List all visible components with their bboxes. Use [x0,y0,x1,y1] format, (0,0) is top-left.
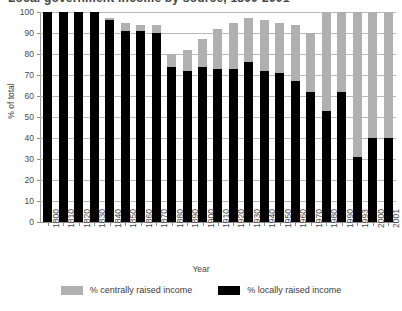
x-tick-mark-1970 [311,223,312,226]
legend-item-central[interactable]: % centrally raised income [61,285,193,295]
x-tick-mark-1920 [233,223,234,226]
bar-1850[interactable] [121,12,130,222]
x-tick-label-1910: 1910 [222,209,231,228]
x-tick-label-1850: 1850 [129,209,138,228]
bar-segment-local-1820 [74,12,83,222]
x-tick-mark-1820 [79,223,80,226]
x-tick-label-1960: 1960 [299,209,308,228]
plot-area [40,12,396,222]
x-tick-mark-1960 [295,223,296,226]
bar-segment-local-1890 [183,71,192,222]
bar-1993[interactable] [353,12,362,222]
bar-segment-central-2000 [368,12,377,138]
x-tick-mark-1950 [280,223,281,226]
y-tick-mark-0 [37,222,40,223]
bar-segment-local-1800 [43,12,52,222]
bar-segment-local-1950 [275,73,284,222]
bar-1980[interactable] [322,12,331,222]
x-tick-mark-1940 [264,223,265,226]
bar-1960[interactable] [291,12,300,222]
bar-segment-central-1870 [152,25,161,33]
y-tick-label-90: 90 [0,29,34,38]
x-tick-mark-2000 [373,223,374,226]
bar-segment-local-1930 [244,62,253,222]
x-tick-mark-1830 [94,223,95,226]
x-tick-label-1970: 1970 [315,209,324,228]
x-tick-mark-1993 [357,223,358,226]
x-tick-mark-1900 [203,223,204,226]
chart-title-strip: Local government income by source, 1800-… [0,0,402,7]
x-tick-label-1860: 1860 [145,209,154,228]
bar-1830[interactable] [90,12,99,222]
x-tick-label-1900: 1900 [207,209,216,228]
bar-segment-local-1990 [337,92,346,222]
y-tick-label-70: 70 [0,71,34,80]
bar-1890[interactable] [183,12,192,222]
bar-1840[interactable] [105,12,114,222]
x-tick-label-1800: 1800 [52,209,61,228]
legend-label-local: % locally raised income [247,285,341,295]
x-tick-label-1940: 1940 [268,209,277,228]
bar-segment-local-1910 [213,69,222,222]
bar-1820[interactable] [74,12,83,222]
y-tick-label-40: 40 [0,134,34,143]
bar-2000[interactable] [368,12,377,222]
bar-1900[interactable] [198,12,207,222]
bar-1950[interactable] [275,12,284,222]
x-tick-label-1820: 1820 [83,209,92,228]
bar-segment-central-2001 [384,12,393,138]
y-tick-label-20: 20 [0,176,34,185]
bar-segment-central-1930 [244,18,253,62]
bar-segment-local-1880 [167,67,176,222]
bar-1810[interactable] [59,12,68,222]
bar-segment-local-1920 [229,69,238,222]
bar-1860[interactable] [136,12,145,222]
bar-1970[interactable] [306,12,315,222]
x-axis-label: Year [0,264,402,274]
x-tick-mark-1860 [141,223,142,226]
bar-segment-local-1980 [322,111,331,222]
bar-segment-central-1850 [121,23,130,31]
x-tick-label-1930: 1930 [253,209,262,228]
bar-segment-local-1840 [105,20,114,222]
x-tick-label-1993: 1993 [361,209,370,228]
x-tick-mark-1910 [218,223,219,226]
bar-1870[interactable] [152,12,161,222]
x-tick-mark-1930 [249,223,250,226]
bar-1990[interactable] [337,12,346,222]
legend-item-local[interactable]: % locally raised income [218,285,341,295]
y-tick-label-80: 80 [0,50,34,59]
bar-segment-central-1980 [322,12,331,111]
legend-swatch-local [218,286,240,295]
bar-1940[interactable] [260,12,269,222]
bar-segment-central-1950 [275,23,284,73]
bar-segment-local-1830 [90,12,99,222]
bar-segment-central-1990 [337,12,346,92]
x-tick-label-1980: 1980 [330,209,339,228]
x-tick-mark-1980 [326,223,327,226]
bar-segment-central-1880 [167,54,176,67]
bar-1800[interactable] [43,12,52,222]
bar-segment-central-1860 [136,25,145,31]
bar-segment-central-1920 [229,23,238,69]
bar-segment-central-1910 [213,29,222,69]
bar-1930[interactable] [244,12,253,222]
bar-segment-local-1850 [121,31,130,222]
x-tick-mark-1850 [125,223,126,226]
bar-1910[interactable] [213,12,222,222]
x-tick-label-1990: 1990 [346,209,355,228]
chart-legend: % centrally raised income% locally raise… [0,285,402,295]
bar-2001[interactable] [384,12,393,222]
x-tick-mark-1990 [342,223,343,226]
x-tick-mark-2001 [388,223,389,226]
bar-segment-local-1870 [152,33,161,222]
x-tick-label-1880: 1880 [176,209,185,228]
x-tick-label-2001: 2001 [392,209,401,228]
bar-1920[interactable] [229,12,238,222]
x-tick-label-1890: 1890 [191,209,200,228]
bar-segment-central-1840 [105,18,114,20]
bar-1880[interactable] [167,12,176,222]
x-tick-label-1920: 1920 [237,209,246,228]
bar-segment-central-1993 [353,12,362,157]
x-tick-mark-1810 [63,223,64,226]
